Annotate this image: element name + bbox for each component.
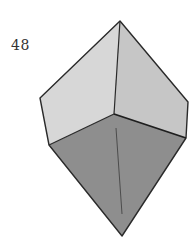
origami-model-figure — [0, 0, 196, 251]
diagram-canvas: 48 — [0, 0, 196, 251]
